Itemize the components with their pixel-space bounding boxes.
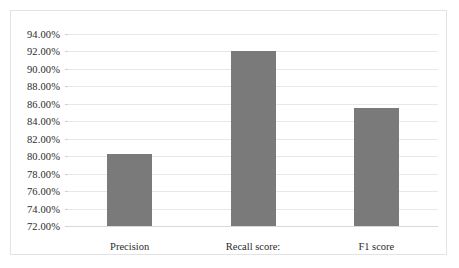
- x-axis-label-2: Recall score:: [226, 241, 281, 252]
- y-axis-tick-label: 82.00%: [27, 133, 60, 144]
- y-axis-tick-labels: 94.00%92.00%90.00%88.00%86.00%84.00%82.0…: [11, 34, 68, 226]
- y-axis-tick-label: 94.00%: [27, 29, 60, 40]
- gridline: [68, 226, 438, 227]
- bar-f1-score[interactable]: [354, 108, 399, 226]
- plot-area: [68, 34, 438, 226]
- bar-precision[interactable]: [107, 154, 152, 226]
- y-axis-tick-label: 74.00%: [27, 203, 60, 214]
- y-axis-tick-label: 78.00%: [27, 168, 60, 179]
- y-axis-tick-label: 80.00%: [27, 151, 60, 162]
- y-axis-tick-label: 90.00%: [27, 63, 60, 74]
- y-axis-tick-label: 92.00%: [27, 46, 60, 57]
- x-axis-label-3: F1 score: [358, 241, 394, 252]
- y-axis-tick-label: 86.00%: [27, 98, 60, 109]
- x-axis-label-1: Precision: [110, 241, 149, 252]
- x-axis-category-labels: PrecisionRecall score:F1 score: [68, 233, 438, 257]
- y-axis-tick-label: 76.00%: [27, 186, 60, 197]
- chart-frame: 94.00%92.00%90.00%88.00%86.00%84.00%82.0…: [10, 10, 447, 255]
- gridline: [68, 34, 438, 35]
- y-axis-tick-label: 72.00%: [27, 221, 60, 232]
- y-axis-tick-label: 88.00%: [27, 81, 60, 92]
- bar-recall-score[interactable]: [231, 51, 276, 226]
- y-axis-tick-label: 84.00%: [27, 116, 60, 127]
